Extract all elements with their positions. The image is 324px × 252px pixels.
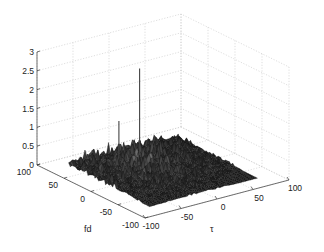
z-tick-label: 3 — [29, 47, 34, 57]
surface-plot: 00.511.522.53100500-50-100-100-50050100 … — [0, 0, 324, 252]
tau-tick-label: 0 — [221, 202, 226, 212]
tau-tick-label: 50 — [254, 193, 264, 203]
surface-mesh — [69, 69, 258, 207]
z-tick-label: 1.5 — [22, 104, 34, 114]
z-tick-label: 0.5 — [22, 141, 34, 151]
tau-axis-label: τ — [210, 224, 214, 234]
tau-tick-label: 100 — [288, 183, 302, 193]
fd-axis-label: fd — [84, 224, 92, 234]
tau-tick-label: -50 — [181, 212, 194, 222]
fd-tick-label: -100 — [122, 220, 139, 230]
fd-tick-label: 0 — [80, 194, 85, 204]
z-tick-label: 2.5 — [22, 66, 34, 76]
fd-tick-label: -50 — [100, 207, 113, 217]
tau-tick-label: -100 — [142, 221, 159, 231]
z-tick-label: 1 — [29, 122, 34, 132]
z-tick-label: 2 — [29, 85, 34, 95]
fd-tick-label: 50 — [49, 180, 59, 190]
fd-tick-label: 100 — [17, 167, 31, 177]
